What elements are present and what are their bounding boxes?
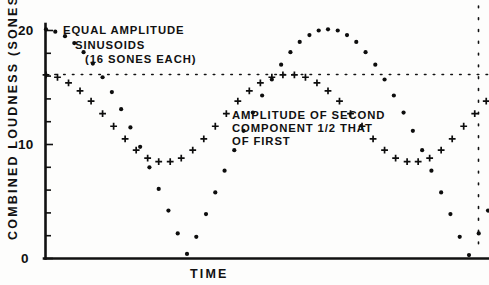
data-point-plus	[438, 147, 445, 154]
data-point-dot	[194, 235, 198, 239]
data-point-dot	[279, 63, 283, 67]
data-point-plus	[415, 158, 422, 165]
data-point-dot	[392, 93, 396, 97]
y-tick-label-20: 20	[18, 23, 33, 38]
chart-figure: COMBINED LOUDNESS (SONES) 0 10 20	[0, 0, 489, 285]
data-point-dot	[44, 27, 48, 31]
data-point-plus	[392, 155, 399, 162]
data-point-dot	[401, 110, 405, 114]
data-point-dot	[222, 169, 226, 173]
data-point-plus	[449, 135, 456, 142]
data-point-plus	[280, 72, 287, 79]
second-component-annotation-line-1: AMPLITUDE OF SECOND	[232, 109, 385, 121]
data-point-dot	[298, 40, 302, 44]
data-point-plus	[381, 147, 388, 154]
data-point-dot	[317, 28, 321, 32]
second-component-annotation-line-2: COMPONENT 1/2 THAT	[232, 122, 373, 134]
data-point-dot	[53, 30, 57, 34]
data-point-dot	[128, 125, 132, 129]
data-point-plus	[43, 72, 50, 79]
data-point-dot	[185, 252, 189, 256]
equal-amplitude-annotation: EQUAL AMPLITUDE SINUSOIDS (16 SONES EACH…	[63, 24, 196, 65]
y-tick-label-0: 0	[21, 251, 29, 266]
data-point-dot	[336, 28, 340, 32]
data-point-dot	[213, 190, 217, 194]
data-point-dot	[354, 40, 358, 44]
data-point-plus	[65, 80, 72, 87]
data-point-plus	[88, 98, 95, 105]
data-point-plus	[291, 72, 298, 79]
data-point-dot	[458, 235, 462, 239]
data-point-plus	[336, 98, 343, 105]
data-point-plus	[155, 158, 162, 165]
x-axis-title: TIME	[190, 267, 229, 281]
data-point-plus	[110, 123, 117, 130]
data-point-dot	[147, 165, 151, 169]
data-point-dot	[100, 75, 104, 79]
data-point-dot	[467, 253, 471, 257]
data-point-plus	[178, 155, 185, 162]
data-point-dot	[373, 63, 377, 67]
data-point-dot	[176, 231, 180, 235]
data-point-plus	[460, 123, 467, 130]
data-point-plus	[234, 98, 241, 105]
data-point-plus	[223, 110, 230, 117]
data-point-plus	[483, 98, 489, 105]
data-point-dot	[157, 187, 161, 191]
y-tick-label-10: 10	[18, 137, 33, 152]
data-point-plus	[99, 110, 106, 117]
data-point-dot	[420, 148, 424, 152]
data-point-dot	[288, 50, 292, 54]
data-point-dot	[429, 169, 433, 173]
data-point-plus	[189, 147, 196, 154]
equal-amplitude-annotation-line-2: SINUSOIDS	[75, 39, 145, 51]
second-component-annotation-line-3: OF FIRST	[232, 135, 291, 147]
data-point-plus	[167, 158, 174, 165]
data-point-plus	[370, 135, 377, 142]
data-point-dot	[260, 93, 264, 97]
data-point-plus	[426, 155, 433, 162]
data-point-dot	[363, 50, 367, 54]
data-point-dot	[119, 107, 123, 111]
data-point-plus	[77, 88, 84, 95]
data-point-plus	[471, 110, 478, 117]
data-point-dot	[345, 33, 349, 37]
data-point-plus	[257, 80, 264, 87]
data-point-plus	[314, 80, 321, 87]
second-component-annotation: AMPLITUDE OF SECOND COMPONENT 1/2 THAT O…	[232, 109, 385, 147]
data-point-dot	[232, 148, 236, 152]
data-point-dot	[411, 129, 415, 133]
data-point-dot	[439, 190, 443, 194]
data-point-dot	[110, 90, 114, 94]
data-point-dot	[326, 27, 330, 31]
data-point-plus	[200, 135, 207, 142]
data-point-dot	[138, 145, 142, 149]
data-point-dot	[477, 231, 481, 235]
data-point-dot	[204, 212, 208, 216]
data-point-plus	[404, 158, 411, 165]
data-point-dot	[382, 77, 386, 81]
data-point-dot	[307, 33, 311, 37]
data-point-plus	[246, 88, 253, 95]
data-point-dot	[166, 209, 170, 213]
data-point-plus	[325, 88, 332, 95]
equal-amplitude-annotation-line-3: (16 SONES EACH)	[85, 53, 196, 65]
data-point-plus	[212, 123, 219, 130]
data-point-plus	[144, 155, 151, 162]
chart-svg: COMBINED LOUDNESS (SONES) 0 10 20	[0, 0, 489, 285]
data-point-dot	[448, 212, 452, 216]
data-point-plus	[122, 135, 129, 142]
equal-amplitude-annotation-line-1: EQUAL AMPLITUDE	[63, 24, 184, 36]
